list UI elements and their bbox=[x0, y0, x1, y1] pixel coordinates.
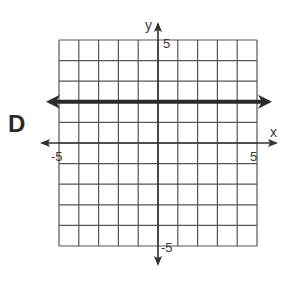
axes bbox=[40, 22, 278, 266]
x-axis-label: x bbox=[270, 124, 277, 140]
y-min-tick-label: -5 bbox=[161, 240, 173, 255]
x-min-tick-label: -5 bbox=[51, 149, 63, 164]
coordinate-plane: x y 5 -5 -5 5 bbox=[0, 0, 296, 285]
y-axis-label: y bbox=[145, 17, 152, 33]
x-max-tick-label: 5 bbox=[250, 149, 257, 164]
plotted-line bbox=[46, 95, 272, 109]
y-max-tick-label: 5 bbox=[163, 36, 170, 51]
